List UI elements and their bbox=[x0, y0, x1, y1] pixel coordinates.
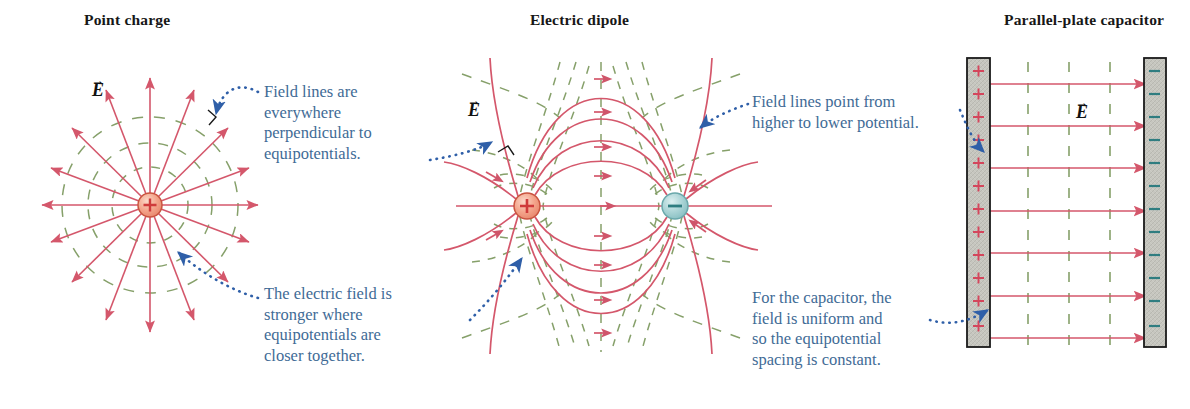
electric-dipole-panel bbox=[444, 58, 772, 354]
positive-charge-point bbox=[138, 193, 162, 217]
capacitor-equipotentials bbox=[1028, 62, 1110, 345]
right-angle-marker bbox=[208, 110, 216, 125]
dipole-equipotentials bbox=[462, 62, 740, 352]
e-vector-label-capacitor: → E bbox=[1076, 102, 1088, 123]
leader-dipole-stronger bbox=[470, 258, 522, 320]
vector-arrow-icon: → bbox=[91, 73, 103, 89]
negative-charge-dipole bbox=[662, 193, 688, 219]
dipole-field-lines bbox=[444, 58, 772, 354]
callout-stronger-field: The electric field is stronger where equ… bbox=[264, 284, 474, 366]
point-charge-panel bbox=[42, 78, 258, 332]
capacitor-right-plate bbox=[1144, 58, 1166, 347]
capacitor-field-lines bbox=[990, 84, 1146, 338]
diagram-svg bbox=[0, 0, 1190, 409]
e-vector-label-dipole: → E bbox=[468, 100, 480, 121]
vector-arrow-icon: → bbox=[1075, 95, 1087, 111]
e-vector-label-point-charge: → E bbox=[92, 80, 104, 101]
callout-uniform-field: For the capacitor, the field is uniform … bbox=[752, 288, 972, 370]
callout-higher-to-lower: Field lines point from higher to lower p… bbox=[752, 92, 997, 133]
callout-perpendicular: Field lines are everywhere perpendicular… bbox=[264, 82, 464, 164]
leader-perpendicular bbox=[216, 87, 258, 114]
leader-stronger-field bbox=[178, 252, 258, 298]
leader-higher-to-lower-left bbox=[700, 104, 748, 128]
vector-arrow-icon: → bbox=[467, 93, 479, 109]
figure-canvas: Point charge Electric dipole Parallel-pl… bbox=[0, 0, 1190, 409]
positive-charge-dipole bbox=[514, 193, 540, 219]
